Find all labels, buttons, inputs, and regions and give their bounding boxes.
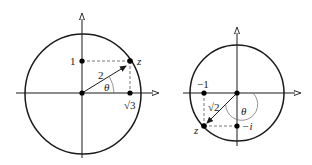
complex-plane-figures: 1 2 θ √3 z −1 √2 θ −i z	[0, 0, 312, 165]
real-tick-dot	[127, 90, 132, 95]
left-diagram: 1 2 θ √3 z	[16, 16, 156, 158]
angle-arc	[110, 77, 115, 93]
imag-tick-dot	[79, 58, 84, 63]
modulus-label: √2	[208, 101, 220, 113]
point-z-label: z	[136, 55, 142, 67]
imag-tick-label: −i	[242, 120, 252, 132]
angle-label: θ	[241, 105, 247, 117]
point-z-dot	[201, 123, 207, 129]
real-tick-label: −1	[197, 78, 209, 90]
right-diagram: −1 √2 θ −i z	[183, 30, 298, 146]
point-z-dot	[127, 58, 133, 64]
angle-label: θ	[104, 81, 110, 93]
modulus-label: 2	[98, 69, 104, 81]
imag-tick-dot	[234, 123, 239, 128]
real-tick-label: √3	[124, 99, 136, 111]
point-z-label: z	[193, 124, 199, 136]
origin-dot	[234, 90, 239, 95]
imag-tick-label: 1	[70, 55, 76, 67]
real-tick-dot	[201, 90, 206, 95]
origin-dot	[79, 90, 84, 95]
